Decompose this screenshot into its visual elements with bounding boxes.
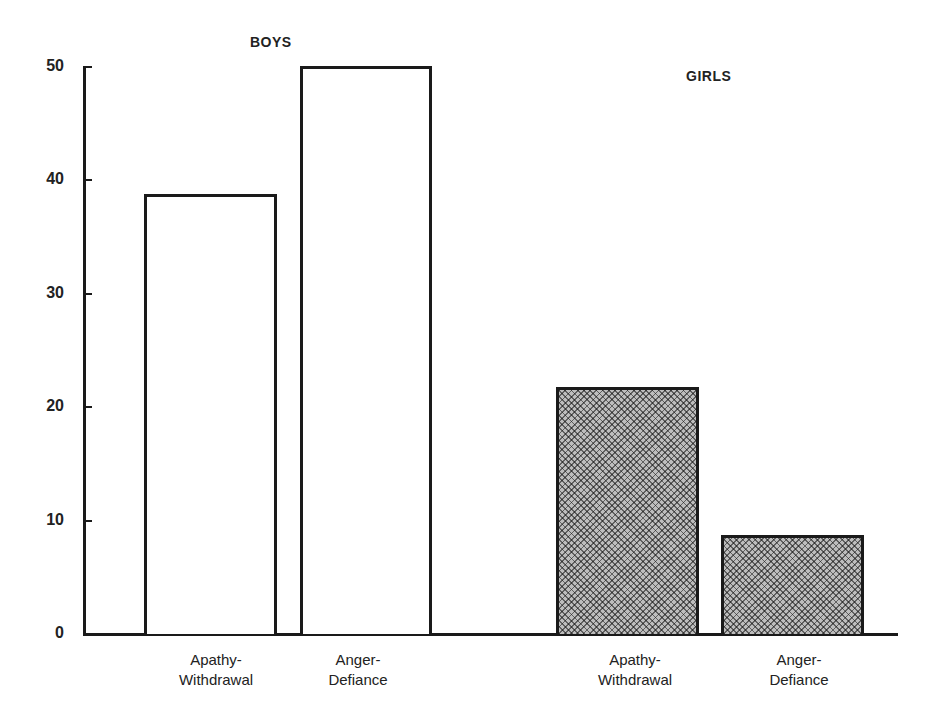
y-tick-label: 50 [24,57,64,75]
x-label-boys-anger-defiance: Anger- Defiance [288,650,428,690]
x-label-girls-anger-defiance: Anger- Defiance [729,650,869,690]
x-label-line: Withdrawal [146,670,286,690]
y-tick [84,293,92,295]
bar-boys-anger-defiance [300,66,432,634]
bar-girls-anger-defiance [721,535,864,634]
bar-boys-apathy-withdrawal [144,194,277,634]
x-label-line: Anger- [729,650,869,670]
y-tick-label: 30 [24,284,64,302]
x-label-line: Apathy- [565,650,705,670]
x-label-line: Defiance [288,670,428,690]
x-label-girls-apathy-withdrawal: Apathy- Withdrawal [565,650,705,690]
y-tick [84,66,92,68]
x-label-line: Anger- [288,650,428,670]
group-title-girls: GIRLS [686,68,731,84]
y-tick-label: 40 [24,170,64,188]
x-label-boys-apathy-withdrawal: Apathy- Withdrawal [146,650,286,690]
x-label-line: Defiance [729,670,869,690]
y-tick-label: 10 [24,511,64,529]
y-tick-label: 0 [24,624,64,642]
bar-girls-apathy-withdrawal [556,387,699,634]
y-tick [84,520,92,522]
y-tick-label: 20 [24,397,64,415]
y-tick [84,406,92,408]
x-label-line: Withdrawal [565,670,705,690]
group-title-boys: BOYS [250,34,292,50]
y-tick [84,179,92,181]
y-axis [83,66,86,636]
x-label-line: Apathy- [146,650,286,670]
